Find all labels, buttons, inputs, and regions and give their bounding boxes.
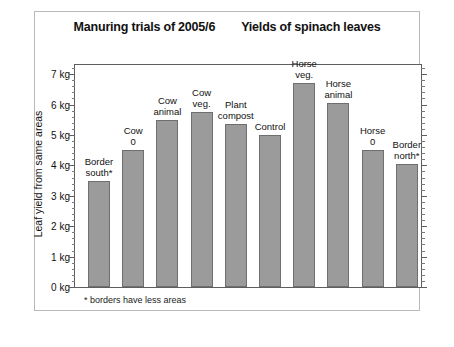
chart-figure: Manuring trials of 2005/6 Yields of spin… <box>0 0 454 347</box>
y-minor-tick-right <box>421 117 425 118</box>
bar-category-label-line: north* <box>393 150 422 161</box>
y-tick-label: 1 kg <box>51 251 70 262</box>
y-minor-tick-right <box>421 92 425 93</box>
bar-category-label: Plantcompost <box>218 99 254 121</box>
y-tick-mark-right <box>421 74 427 75</box>
bar[interactable] <box>259 135 281 287</box>
bar-category-label-line: animal <box>324 89 352 100</box>
bar-category-label-line: Border <box>393 139 422 150</box>
bar-group: Bordersouth* <box>88 65 110 287</box>
y-minor-tick-right <box>421 141 425 142</box>
y-minor-tick-right <box>421 238 425 239</box>
bar-group: Cow0 <box>122 65 144 287</box>
y-minor-tick-right <box>421 263 425 264</box>
bar-category-label-line: 0 <box>360 136 385 147</box>
y-minor-tick-right <box>421 275 425 276</box>
y-minor-tick-right <box>421 214 425 215</box>
y-tick-mark-right <box>421 165 427 166</box>
bar-group: Cowanimal <box>156 65 178 287</box>
y-minor-tick-right <box>421 171 425 172</box>
bar-category-label: Bordersouth* <box>85 156 114 178</box>
y-minor-tick-right <box>421 184 425 185</box>
bar-category-label: Cowveg. <box>192 87 211 109</box>
bar[interactable] <box>122 150 144 287</box>
bar-category-label-line: Horse <box>324 78 352 89</box>
y-minor-tick-right <box>421 178 425 179</box>
y-tick-mark-right <box>421 105 427 106</box>
bar-category-label-line: Cow <box>124 125 143 136</box>
bar-category-label-line: 0 <box>124 136 143 147</box>
bar-category-label-line: veg. <box>292 69 317 80</box>
bar-category-label-line: Border <box>85 156 114 167</box>
y-minor-tick-right <box>421 232 425 233</box>
bar-group: Horseveg. <box>293 65 315 287</box>
y-minor-tick-right <box>421 80 425 81</box>
y-minor-tick-right <box>421 98 425 99</box>
y-tick-mark <box>69 287 75 288</box>
bar-category-label-line: Cow <box>192 87 211 98</box>
bar[interactable] <box>225 124 247 287</box>
bar-category-label: Control <box>255 121 286 132</box>
y-minor-tick-right <box>421 68 425 69</box>
y-minor-tick-right <box>421 129 425 130</box>
bar[interactable] <box>293 83 315 287</box>
y-minor-tick-right <box>421 86 425 87</box>
bar-category-label-line: compost <box>218 110 254 121</box>
y-minor-tick-right <box>421 111 425 112</box>
bar-category-label-line: veg. <box>192 98 211 109</box>
y-minor-tick-right <box>421 147 425 148</box>
y-minor-tick-right <box>421 153 425 154</box>
chart-title-right: Yields of spinach leaves <box>241 20 380 34</box>
bar[interactable] <box>327 103 349 287</box>
y-tick-label: 5 kg <box>51 129 70 140</box>
y-minor-tick-right <box>421 281 425 282</box>
bar-group: Control <box>259 65 281 287</box>
bar-category-label: Cow0 <box>124 125 143 147</box>
plot-area: 0 kg1 kg2 kg3 kg4 kg5 kg6 kg7 kg Borders… <box>74 64 422 288</box>
y-tick-mark-right <box>421 196 427 197</box>
y-tick-mark-right <box>421 226 427 227</box>
y-minor-tick-right <box>421 123 425 124</box>
bar-category-label-line: Horse <box>360 125 385 136</box>
bar-group: Horse0 <box>362 65 384 287</box>
bar-category-label-line: Control <box>255 121 286 132</box>
y-tick-mark-right <box>421 135 427 136</box>
y-tick-label: 4 kg <box>51 160 70 171</box>
bar-category-label-line: Horse <box>292 58 317 69</box>
bar-category-label: Horse0 <box>360 125 385 147</box>
y-minor-tick-right <box>421 269 425 270</box>
bar-category-label-line: animal <box>153 106 181 117</box>
bar[interactable] <box>88 181 110 287</box>
footnote: * borders have less areas <box>84 295 186 305</box>
bar-category-label-line: south* <box>85 167 114 178</box>
y-minor-tick-right <box>421 251 425 252</box>
bar-category-label: Cowanimal <box>153 95 181 117</box>
y-tick-label: 0 kg <box>51 282 70 293</box>
bar[interactable] <box>362 150 384 287</box>
bar-category-label-line: Cow <box>153 95 181 106</box>
y-minor-tick-right <box>421 244 425 245</box>
y-tick-mark-right <box>421 257 427 258</box>
bar-group: Cowveg. <box>191 65 213 287</box>
chart-title-row: Manuring trials of 2005/6 Yields of spin… <box>34 16 420 38</box>
y-minor-tick-right <box>421 202 425 203</box>
y-tick-label: 3 kg <box>51 190 70 201</box>
y-tick-label: 2 kg <box>51 221 70 232</box>
bar-group: Horseanimal <box>327 65 349 287</box>
bar-category-label: Horseveg. <box>292 58 317 80</box>
bars-layer: Bordersouth*Cow0CowanimalCowveg.Plantcom… <box>75 65 421 287</box>
bar-group: Bordernorth* <box>396 65 418 287</box>
y-minor-tick-right <box>421 208 425 209</box>
bar[interactable] <box>191 112 213 287</box>
y-minor-tick-right <box>421 220 425 221</box>
y-tick-label: 7 kg <box>51 69 70 80</box>
y-axis-title: Leaf yield from same areas <box>32 74 44 274</box>
y-minor-tick-right <box>421 159 425 160</box>
bar-group: Plantcompost <box>225 65 247 287</box>
chart-title-left: Manuring trials of 2005/6 <box>74 20 216 34</box>
bar[interactable] <box>156 120 178 287</box>
bar-category-label: Horseanimal <box>324 78 352 100</box>
bar[interactable] <box>396 164 418 287</box>
bar-category-label: Bordernorth* <box>393 139 422 161</box>
y-tick-mark-right <box>421 287 427 288</box>
